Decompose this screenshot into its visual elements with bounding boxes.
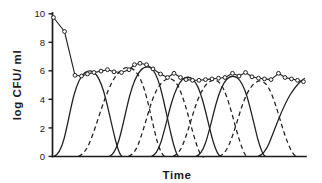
y-tick-label-10: 10 (34, 8, 45, 19)
data-point-marker (133, 63, 137, 67)
data-point-marker (210, 77, 214, 81)
solid-bloom-1 (54, 71, 122, 156)
y-tick-label-0: 0 (40, 151, 45, 162)
data-point-marker (283, 76, 287, 80)
data-point-marker (204, 78, 208, 82)
y-tick-label-6: 6 (40, 65, 45, 76)
dashed-bloom-1 (79, 67, 165, 156)
data-point-marker (92, 71, 96, 75)
data-point-marker (63, 30, 67, 34)
data-point-marker (296, 78, 300, 82)
data-point-marker (179, 76, 183, 80)
dashed-bloom-2 (129, 79, 205, 157)
data-point-marker (151, 67, 155, 71)
data-point-marker (52, 16, 56, 20)
data-point-marker (184, 78, 188, 82)
data-point-marker (237, 74, 241, 78)
chart-plot-area: 10 8 6 4 2 0 log CFU/ ml Time (0, 0, 322, 183)
y-tick-label-group: 10 8 6 4 2 0 (34, 8, 45, 162)
data-point-marker (257, 76, 261, 80)
data-point-marker (263, 77, 267, 81)
data-point-marker (223, 76, 227, 80)
data-point-marker (112, 70, 116, 74)
data-point-marker (138, 61, 142, 65)
data-point-marker (127, 68, 131, 72)
x-axis-title: Time (162, 169, 191, 181)
y-tick-label-8: 8 (40, 37, 45, 48)
data-point-marker (166, 76, 170, 80)
y-tick-label-2: 2 (40, 123, 45, 134)
data-point-marker (172, 71, 176, 75)
data-point-marker (99, 69, 103, 73)
data-point-marker (159, 72, 163, 76)
data-point-marker (145, 63, 149, 67)
data-point-marker (197, 78, 201, 82)
data-point-marker (86, 72, 90, 76)
data-point-marker (191, 78, 195, 82)
total-population-markers (52, 16, 306, 84)
data-point-marker (277, 71, 281, 75)
data-point-marker (250, 75, 254, 79)
data-point-marker (106, 68, 110, 72)
total-population-series (52, 16, 306, 84)
solid-bloom-3 (152, 77, 221, 156)
chart-figure: 10 8 6 4 2 0 log CFU/ ml Time (0, 0, 322, 183)
data-point-marker (290, 77, 294, 81)
dashed-bloom-3 (173, 80, 249, 157)
y-tick-label-4: 4 (40, 94, 45, 105)
data-point-marker (80, 74, 84, 78)
data-point-marker (231, 71, 235, 75)
data-point-marker (244, 71, 248, 75)
data-point-marker (73, 73, 77, 77)
y-axis-title: log CFU/ ml (11, 50, 23, 121)
data-point-marker (269, 78, 273, 82)
data-point-marker (120, 71, 124, 75)
data-point-marker (217, 76, 221, 80)
solid-bloom-2 (110, 67, 179, 156)
solid-bloom-5-rising (258, 79, 305, 157)
solid-bloom-curves (54, 67, 305, 156)
total-population-line (54, 18, 304, 82)
dashed-bloom-4 (219, 81, 297, 156)
data-point-marker (302, 80, 306, 84)
